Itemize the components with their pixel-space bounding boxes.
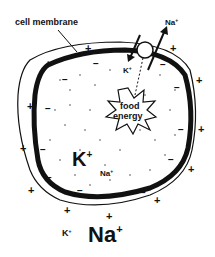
svg-text:+: + <box>27 100 33 112</box>
sodium-potassium-pump-diagram: cell membrane Na+ K+ food energy K+ Na+ … <box>0 0 215 257</box>
svg-text:+: + <box>198 123 204 135</box>
energy-label: energy <box>113 111 143 121</box>
membrane-pointer <box>58 30 77 52</box>
cell-body <box>34 50 191 197</box>
svg-text:−: − <box>140 187 146 198</box>
svg-text:+: + <box>64 204 70 216</box>
na-outside-label: Na+ <box>88 222 123 247</box>
svg-text:+: + <box>188 163 194 175</box>
pump-channel <box>137 42 153 58</box>
svg-text:+: + <box>170 42 176 54</box>
svg-text:+: + <box>20 142 26 154</box>
svg-text:−: − <box>46 172 52 183</box>
svg-text:−: − <box>168 154 174 165</box>
svg-text:−: − <box>174 82 180 93</box>
svg-text:+: + <box>154 194 160 206</box>
svg-text:+: + <box>45 58 51 70</box>
food-label: food <box>120 101 140 111</box>
svg-text:−: − <box>40 144 46 155</box>
na-outside-top-label: Na+ <box>165 17 178 27</box>
svg-text:−: − <box>108 190 114 201</box>
svg-text:−: − <box>62 74 68 85</box>
svg-text:−: − <box>160 59 166 70</box>
svg-text:+: + <box>106 210 112 222</box>
svg-text:+: + <box>196 74 202 86</box>
svg-text:−: − <box>93 58 99 69</box>
svg-text:−: − <box>178 124 184 135</box>
cell-membrane-label: cell membrane <box>15 17 78 27</box>
svg-text:−: − <box>77 185 83 196</box>
svg-text:−: − <box>45 103 51 114</box>
k-outside-label: K+ <box>62 228 72 238</box>
svg-text:+: + <box>28 184 34 196</box>
svg-text:+: + <box>85 42 91 54</box>
